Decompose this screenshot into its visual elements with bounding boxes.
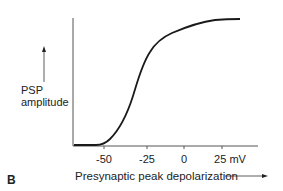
y-axis-label-line1: PSP [21,84,43,96]
psp-curve [74,19,240,145]
y-axis-label-line2: amplitude [21,96,69,108]
panel-label: B [7,173,16,187]
x-tick-label: -25 [139,153,155,165]
y-arrow-icon [42,46,46,82]
x-tick-label: 25 mV [214,153,246,165]
x-tick-label: -50 [96,153,112,165]
x-tick-label: 0 [181,153,187,165]
x-axis-label: Presynaptic peak depolarization [75,170,238,182]
